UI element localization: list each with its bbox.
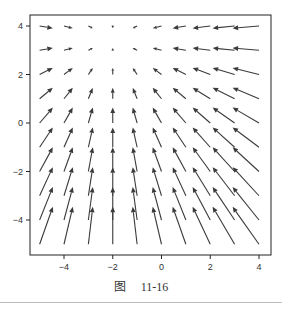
vector-arrow: [153, 26, 162, 29]
vector-arrow: [193, 46, 211, 51]
vector-arrow: [213, 25, 235, 30]
vector-arrow: [110, 127, 115, 147]
x-tick-label: 0: [159, 262, 164, 272]
x-tick-label: 4: [256, 262, 261, 272]
caption-number: 11-16: [141, 280, 169, 294]
divider-line: [0, 302, 282, 303]
vector-arrow: [40, 25, 53, 30]
vector-arrow: [233, 25, 259, 30]
vector-arrow: [88, 88, 92, 99]
vector-arrow: [64, 147, 73, 171]
vector-arrow: [213, 147, 235, 171]
vector-arrow: [213, 108, 235, 123]
vector-arrow: [173, 108, 186, 123]
vector-arrow: [213, 46, 235, 51]
vector-arrow: [233, 127, 259, 147]
vector-arrow: [173, 127, 186, 147]
vector-arrow: [173, 88, 186, 99]
caption-prefix: 图: [114, 280, 126, 294]
vector-arrow: [40, 47, 53, 52]
vector-arrow: [173, 47, 186, 52]
vector-arrow: [132, 127, 138, 147]
vector-arrow: [213, 207, 235, 244]
vector-arrow: [40, 127, 53, 147]
vector-arrow: [88, 147, 94, 171]
vector-arrow: [233, 46, 259, 51]
vector-arrow: [88, 127, 94, 147]
y-tick-label: −4: [13, 215, 23, 225]
vector-arrow: [64, 47, 73, 50]
y-tick-label: 2: [18, 70, 23, 80]
y-tick-label: 0: [18, 118, 23, 128]
vector-arrow: [111, 88, 115, 99]
vector-arrow: [111, 26, 114, 29]
vector-arrow: [131, 147, 137, 171]
vector-arrow: [213, 127, 235, 147]
x-axis-ticks: −4−2024: [59, 255, 262, 272]
vector-arrow: [153, 68, 162, 75]
x-tick-label: −2: [108, 262, 118, 272]
vector-arrow: [64, 88, 73, 99]
vector-arrow: [193, 25, 211, 30]
vector-arrow: [213, 67, 235, 74]
vector-arrow: [153, 108, 162, 123]
vector-arrow: [153, 88, 162, 99]
vector-arrow: [173, 68, 186, 75]
y-tick-label: 4: [18, 21, 23, 31]
vector-arrow: [152, 147, 161, 171]
vector-arrow: [193, 88, 211, 99]
vector-arrow: [132, 108, 137, 123]
vector-arrow: [153, 47, 162, 50]
vector-arrow: [40, 207, 54, 244]
vector-arrow: [88, 108, 93, 123]
vector-arrow: [88, 48, 92, 50]
vector-arrow: [64, 108, 73, 123]
vector-arrow: [110, 108, 115, 123]
y-tick-label: −2: [13, 167, 23, 177]
y-axis-ticks: −4−2024: [13, 21, 30, 225]
vector-arrow: [88, 68, 92, 75]
vector-arrow: [40, 88, 53, 99]
vector-arrow: [233, 88, 259, 99]
vector-arrow: [193, 127, 211, 147]
vector-arrow: [233, 207, 259, 244]
vector-arrow: [213, 88, 235, 99]
vector-arrow: [111, 68, 114, 75]
vector-arrow: [40, 108, 53, 123]
vector-arrow: [110, 147, 115, 171]
vector-arrow: [172, 207, 186, 244]
vector-arrow: [64, 26, 73, 29]
vector-arrow: [40, 147, 53, 171]
vector-arrow: [233, 147, 259, 171]
vector-arrow: [193, 147, 211, 171]
vector-arrow: [153, 127, 162, 147]
quiver-chart: −4−2024 −4−2024: [0, 0, 282, 275]
vector-arrow: [133, 88, 137, 99]
vector-arrow: [193, 108, 211, 123]
vector-arrow: [133, 68, 137, 75]
vector-arrow: [233, 108, 259, 123]
vector-arrows: [40, 25, 259, 244]
vector-arrow: [133, 48, 137, 50]
x-tick-label: 2: [208, 262, 213, 272]
figure-caption: 图 11-16: [0, 277, 282, 295]
vector-arrow: [133, 26, 137, 28]
x-tick-label: −4: [59, 262, 69, 272]
vector-arrow: [40, 68, 53, 75]
vector-arrow: [233, 67, 259, 75]
vector-arrow: [64, 68, 73, 75]
vector-arrow: [111, 48, 114, 51]
vector-arrow: [64, 127, 73, 147]
vector-arrow: [88, 26, 92, 28]
vector-arrow: [193, 207, 211, 244]
vector-arrow: [173, 25, 186, 30]
vector-arrow: [193, 68, 211, 75]
vector-arrow: [173, 147, 186, 171]
plot-frame: [30, 15, 271, 255]
